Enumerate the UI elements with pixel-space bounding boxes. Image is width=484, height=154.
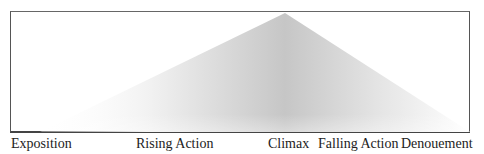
plot-pyramid-shape xyxy=(0,0,484,154)
stage-label-falling-action: Falling Action xyxy=(318,136,399,152)
stage-label-exposition: Exposition xyxy=(11,136,72,152)
stage-label-rising-action: Rising Action xyxy=(136,136,213,152)
stage-label-climax: Climax xyxy=(268,136,309,152)
stage-label-denouement: Denouement xyxy=(401,136,473,152)
